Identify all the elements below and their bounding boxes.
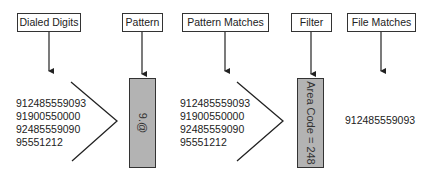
stage-label-dialed-digits: Dialed Digits <box>17 13 81 32</box>
pattern-matches-list: 912485559093 91900550000 92485559090 955… <box>180 97 250 149</box>
list-item: 91900550000 <box>180 110 250 123</box>
list-item: 95551212 <box>16 136 86 149</box>
file-match-item: 912485559093 <box>345 114 415 126</box>
filter-box: Area Code = 248 <box>297 78 324 168</box>
pattern-box: 9.@ <box>129 78 156 168</box>
list-item: 912485559093 <box>180 97 250 110</box>
dialed-digits-list: 912485559093 91900550000 92485559090 955… <box>16 97 86 149</box>
stage-label-filter: Filter <box>291 13 332 32</box>
filter-value: Area Code = 248 <box>305 81 317 164</box>
list-item: 92485559090 <box>180 123 250 136</box>
list-item: 91900550000 <box>16 110 86 123</box>
list-item: 95551212 <box>180 136 250 149</box>
stage-label-file-matches: File Matches <box>347 13 416 32</box>
stage-label-pattern: Pattern <box>122 13 163 32</box>
pattern-value: 9.@ <box>137 113 149 133</box>
stage-label-pattern-matches: Pattern Matches <box>182 13 269 32</box>
list-item: 912485559093 <box>16 97 86 110</box>
list-item: 92485559090 <box>16 123 86 136</box>
